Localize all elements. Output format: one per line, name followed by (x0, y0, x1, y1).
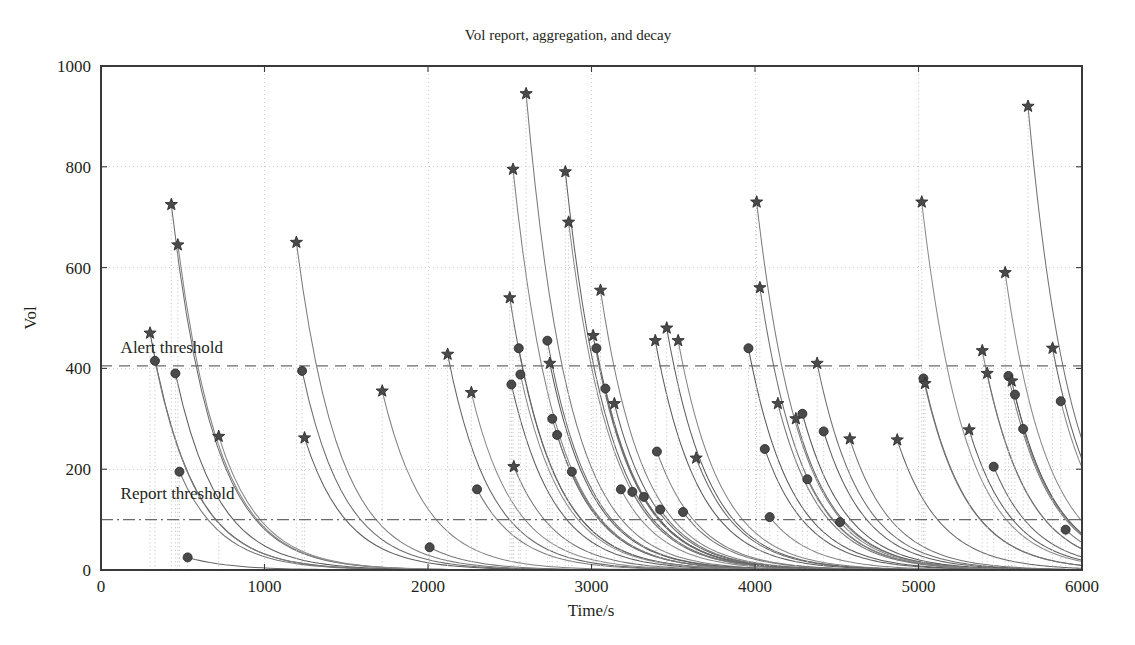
circle-marker (543, 336, 552, 345)
circle-marker (819, 427, 828, 436)
y-tick-label: 0 (83, 561, 92, 580)
chart-figure: Vol report, aggregation, and decay 01000… (0, 0, 1135, 645)
circle-marker (836, 518, 845, 527)
x-tick-label: 5000 (902, 577, 936, 596)
circle-marker (171, 369, 180, 378)
x-tick-label: 2000 (411, 577, 445, 596)
circle-marker (1061, 525, 1070, 534)
plot-background (0, 0, 1135, 645)
x-tick-label: 6000 (1065, 577, 1099, 596)
circle-marker (425, 543, 434, 552)
report-threshold-label: Report threshold (121, 484, 235, 503)
circle-marker (639, 492, 648, 501)
circle-marker (567, 467, 576, 476)
circle-marker (507, 380, 516, 389)
x-tick-label: 3000 (575, 577, 609, 596)
y-tick-label: 200 (66, 460, 92, 479)
circle-marker (628, 487, 637, 496)
circle-marker (150, 356, 159, 365)
circle-marker (516, 370, 525, 379)
circle-marker (601, 384, 610, 393)
circle-marker (175, 467, 184, 476)
circle-marker (183, 553, 192, 562)
circle-marker (473, 485, 482, 494)
chart-title: Vol report, aggregation, and decay (465, 27, 672, 43)
circle-marker (760, 445, 769, 454)
circle-marker (679, 508, 688, 517)
circle-marker (616, 485, 625, 494)
circle-marker (656, 505, 665, 514)
x-tick-label: 0 (97, 577, 106, 596)
circle-marker (652, 447, 661, 456)
x-axis-label: Time/s (568, 601, 615, 620)
circle-marker (548, 414, 557, 423)
circle-marker (1056, 397, 1065, 406)
circle-marker (803, 475, 812, 484)
y-axis-label: Vol (21, 306, 40, 330)
alert-threshold-label: Alert threshold (121, 338, 224, 357)
circle-marker (1019, 424, 1028, 433)
y-tick-label: 1000 (57, 57, 91, 76)
circle-marker (1010, 390, 1019, 399)
y-tick-label: 600 (66, 259, 92, 278)
y-tick-label: 800 (66, 158, 92, 177)
circle-marker (553, 430, 562, 439)
circle-marker (989, 462, 998, 471)
circle-marker (798, 409, 807, 418)
circle-marker (514, 344, 523, 353)
x-tick-label: 1000 (248, 577, 282, 596)
chart-canvas: Vol report, aggregation, and decay 01000… (0, 0, 1135, 645)
circle-marker (744, 344, 753, 353)
circle-marker (298, 366, 307, 375)
circle-marker (592, 344, 601, 353)
y-tick-label: 400 (66, 359, 92, 378)
x-tick-label: 4000 (738, 577, 772, 596)
circle-marker (765, 513, 774, 522)
